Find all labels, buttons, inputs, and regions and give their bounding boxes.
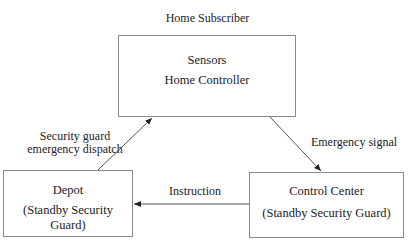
dispatch-label-line2: emergency dispatch <box>20 142 130 157</box>
node-line: Home Controller <box>119 73 295 88</box>
home-controller-node: Sensors Home Controller <box>118 35 296 117</box>
node-line: Control Center <box>250 184 403 199</box>
control-center-node: Control Center (Standby Security Guard) <box>249 172 404 238</box>
node-line: (Standby Security Guard) <box>250 206 403 221</box>
node-line: Sensors <box>119 53 295 68</box>
depot-node: Depot (Standby Security Guard) <box>3 170 133 237</box>
home-subscriber-label: Home Subscriber <box>150 11 265 26</box>
emergency-signal-label: Emergency signal <box>304 135 404 150</box>
node-line: Depot <box>4 183 132 198</box>
instruction-label: Instruction <box>160 184 230 199</box>
node-line: (Standby Security Guard) <box>4 203 132 233</box>
